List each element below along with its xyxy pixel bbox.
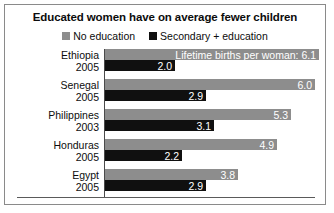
category-year: 2005: [17, 91, 99, 103]
bar-group: Honduras 2005 4.9 2.2: [17, 139, 315, 162]
category-year: 2003: [17, 121, 99, 133]
category-label: Senegal 2005: [17, 79, 99, 103]
category-label: Egypt 2005: [17, 169, 99, 193]
bar-group: Philippines 2003 5.3 3.1: [17, 109, 315, 132]
category-country: Philippines: [48, 109, 99, 121]
plot-area: Ethiopia 2005 Lifetime births per woman:…: [17, 49, 315, 197]
bar-no-education: Lifetime births per woman: 6.1: [105, 49, 319, 60]
bar-secondary-education: 2.9: [105, 90, 206, 101]
chart-figure: Educated women have on average fewer chi…: [4, 4, 326, 205]
legend-item-no-education: No education: [62, 30, 135, 42]
bar-secondary-education: 2.2: [105, 150, 182, 161]
bar-group: Egypt 2005 3.8 2.9: [17, 169, 315, 192]
legend-label-no-education: No education: [73, 30, 135, 42]
bar-secondary-education: 2.0: [105, 60, 175, 71]
legend-label-secondary-education: Secondary + education: [160, 30, 268, 42]
x-axis-baseline: [17, 197, 315, 198]
bar-value: 2.9: [188, 180, 206, 192]
bar-value: 6.0: [297, 79, 315, 91]
bar-value: 2.9: [188, 90, 206, 102]
bar-value: 3.1: [196, 120, 214, 132]
bar-value: 4.9: [259, 139, 277, 151]
bar-value: 2.0: [157, 60, 175, 72]
chart-title: Educated women have on average fewer chi…: [5, 11, 325, 23]
bar-annotation: Lifetime births per woman: 6.1: [175, 49, 319, 61]
bar-no-education: 4.9: [105, 139, 277, 150]
category-year: 2005: [17, 61, 99, 73]
bar-group: Senegal 2005 6.0 2.9: [17, 79, 315, 102]
bar-value: 3.8: [220, 169, 238, 181]
category-label: Ethiopia 2005: [17, 49, 99, 73]
legend-item-secondary-education: Secondary + education: [149, 30, 268, 42]
bar-value: 2.2: [164, 150, 182, 162]
legend-swatch-no-education: [62, 32, 70, 40]
legend-swatch-secondary-education: [149, 32, 157, 40]
category-country: Egypt: [72, 169, 99, 181]
chart-legend: No education Secondary + education: [5, 30, 325, 42]
category-country: Honduras: [53, 139, 99, 151]
bar-no-education: 3.8: [105, 169, 238, 180]
category-year: 2005: [17, 151, 99, 163]
bar-secondary-education: 3.1: [105, 120, 214, 131]
bar-no-education: 5.3: [105, 109, 291, 120]
category-country: Ethiopia: [61, 49, 99, 61]
category-year: 2005: [17, 181, 99, 193]
bar-group: Ethiopia 2005 Lifetime births per woman:…: [17, 49, 315, 72]
bar-no-education: 6.0: [105, 79, 315, 90]
category-label: Honduras 2005: [17, 139, 99, 163]
bar-secondary-education: 2.9: [105, 180, 206, 191]
category-label: Philippines 2003: [17, 109, 99, 133]
category-country: Senegal: [60, 79, 99, 91]
bar-value: 5.3: [273, 109, 291, 121]
